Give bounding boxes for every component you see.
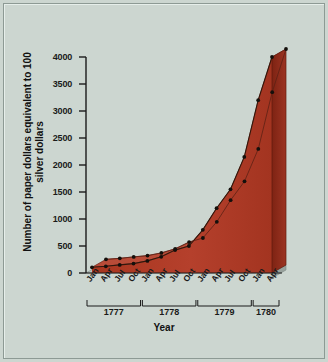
y-tick-3000: 3000	[38, 106, 72, 116]
y-tick-500: 500	[38, 241, 72, 251]
y-tick-3500: 3500	[38, 79, 72, 89]
chart-figure: Number of paper dollars equivalent to 10…	[0, 0, 328, 362]
area-side-face	[272, 49, 286, 273]
y-tick-0: 0	[38, 268, 72, 278]
year-label-1780: 1780	[241, 307, 291, 317]
year-label-1778: 1778	[144, 307, 194, 317]
y-tick-1000: 1000	[38, 214, 72, 224]
y-tick-2500: 2500	[38, 133, 72, 143]
year-brackets	[87, 300, 279, 306]
y-tick-1500: 1500	[38, 187, 72, 197]
y-tick-2000: 2000	[38, 160, 72, 170]
y-axis	[79, 57, 86, 273]
y-tick-4000: 4000	[38, 52, 72, 62]
area-front-face	[92, 57, 272, 273]
year-label-1777: 1777	[89, 307, 139, 317]
